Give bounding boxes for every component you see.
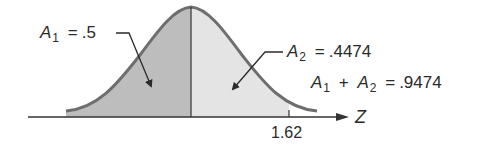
z-axis-arrow-icon bbox=[336, 113, 349, 121]
sum-label: A1 + A2 =.9474 bbox=[311, 74, 442, 94]
tick-label-1-62: 1.62 bbox=[271, 125, 302, 141]
a2-value: .4474 bbox=[329, 42, 372, 61]
a1-label: A1 =.5 bbox=[40, 24, 96, 44]
z-axis-label: Z bbox=[355, 108, 366, 126]
a2-equals: = bbox=[315, 42, 325, 61]
a2-sub: 2 bbox=[299, 50, 306, 64]
a1-sub: 1 bbox=[52, 31, 59, 45]
sum-a2-var: A bbox=[357, 73, 368, 92]
a1-value: .5 bbox=[82, 23, 96, 42]
sum-a2-sub: 2 bbox=[370, 81, 377, 95]
sum-a1-sub: 1 bbox=[323, 81, 330, 95]
sum-value: .9474 bbox=[399, 73, 442, 92]
region-a2 bbox=[191, 7, 289, 117]
a2-var: A bbox=[287, 42, 298, 61]
sum-equals: = bbox=[385, 73, 395, 92]
sum-a1-var: A bbox=[311, 73, 322, 92]
a1-equals: = bbox=[68, 23, 78, 42]
a1-var: A bbox=[40, 23, 51, 42]
sum-plus: + bbox=[339, 73, 349, 92]
a2-label: A2 =.4474 bbox=[287, 43, 371, 63]
